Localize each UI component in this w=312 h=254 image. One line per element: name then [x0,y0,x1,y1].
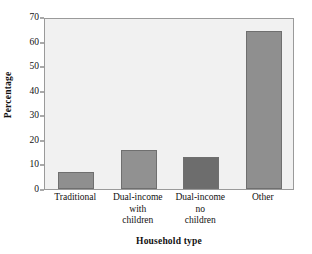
x-axis-tick-label: Dual-income no children [167,192,233,227]
x-axis-tick-label: Other [230,192,296,204]
y-axis-tick-label: 50 [30,62,40,72]
y-axis-tick-label: 0 [34,185,39,195]
y-axis-tick-label: 10 [30,161,40,171]
bar [183,157,219,189]
x-axis-title: Household type [44,236,294,246]
x-axis-tick-label: Traditional [42,192,108,204]
y-axis: 010203040506070 [16,18,44,190]
bar [121,150,157,189]
y-axis-title: Percentage [0,0,16,190]
y-axis-tick-label: 20 [30,136,40,146]
y-axis-tick-label: 60 [30,38,40,48]
y-axis-tick-label: 40 [30,87,40,97]
y-axis-title-label: Percentage [3,72,13,119]
bar [246,31,282,189]
bar [58,172,94,189]
plot-area [44,18,294,190]
x-axis-tick-label: Dual-income with children [105,192,171,227]
x-axis: TraditionalDual-income with childrenDual… [44,192,294,234]
y-axis-tick-label: 70 [30,13,40,23]
y-axis-tick-label: 30 [30,112,40,122]
bar-chart: Percentage 010203040506070 TraditionalDu… [0,0,312,254]
